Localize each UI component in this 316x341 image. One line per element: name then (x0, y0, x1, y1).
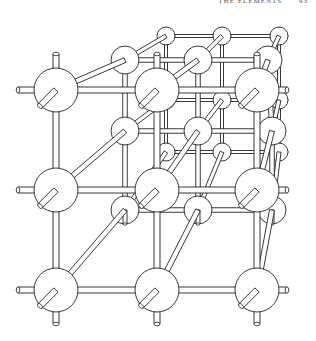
rod-end-cap (53, 322, 59, 326)
rod-end-cap (53, 52, 59, 56)
crystal-lattice-figure (0, 0, 316, 341)
rod-end-cap (285, 87, 289, 93)
rod-end-cap (16, 287, 20, 293)
rod-end-cap (154, 52, 160, 56)
rod-end-cap (16, 187, 20, 193)
rod-end-cap (285, 287, 289, 293)
rod-end-cap (254, 322, 260, 326)
rod-end-cap (254, 52, 260, 56)
rod-end-cap (123, 223, 127, 225)
rod-end-cap (16, 87, 20, 93)
rod-end-cap (154, 322, 160, 326)
rod-end-cap (196, 223, 200, 225)
rod-end-cap (285, 187, 289, 193)
